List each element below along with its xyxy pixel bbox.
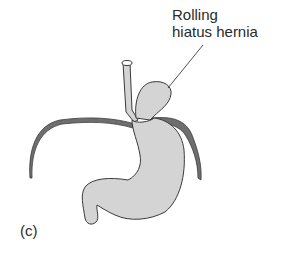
label-line-2: hiatus hernia bbox=[172, 23, 258, 40]
hernia-label: Rolling hiatus hernia bbox=[172, 6, 258, 40]
stomach bbox=[82, 118, 184, 224]
esophagus-opening bbox=[122, 61, 132, 66]
panel-label: (c) bbox=[20, 222, 38, 239]
hernia-pouch bbox=[136, 82, 171, 120]
label-line-1: Rolling bbox=[172, 6, 258, 23]
label-pointer bbox=[168, 45, 203, 88]
diaphragm-left bbox=[30, 118, 135, 178]
